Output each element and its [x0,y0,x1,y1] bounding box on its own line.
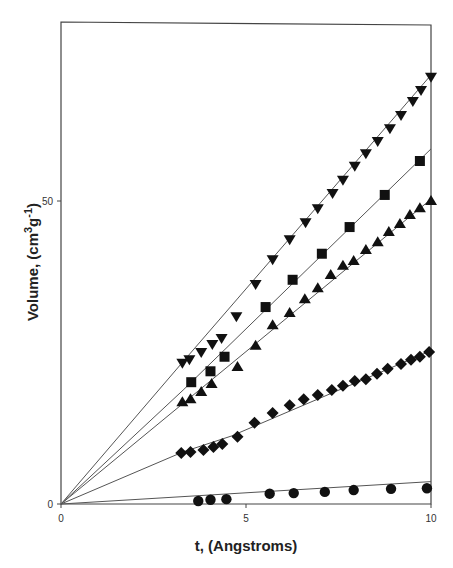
x-axis-title: t, (Angstroms) [195,537,298,554]
circle-marker [264,488,274,498]
circle-marker [320,487,330,497]
circle-marker [205,495,215,505]
x-tick-label: 5 [243,513,249,524]
chart-background [0,0,453,568]
chart: 0510050 t, (Angstroms) Volume, (cm3g-1) [0,0,453,568]
x-tick-label: 0 [58,513,64,524]
y-axis-title: Volume, (cm3g-1) [22,203,41,321]
square-marker [345,222,355,232]
square-marker [415,156,425,166]
circle-marker [193,496,203,506]
circle-marker [289,488,299,498]
circle-marker [348,485,358,495]
square-marker [380,190,390,200]
circle-marker [221,494,231,504]
x-tick-label: 10 [425,513,437,524]
circle-marker [386,484,396,494]
square-marker [317,249,327,259]
square-marker [186,377,196,387]
square-marker [220,352,230,362]
square-marker [288,275,298,285]
y-tick-label: 50 [42,196,54,207]
square-marker [261,302,271,312]
y-tick-label: 0 [47,499,53,510]
circle-marker [422,483,432,493]
square-marker [205,366,215,376]
